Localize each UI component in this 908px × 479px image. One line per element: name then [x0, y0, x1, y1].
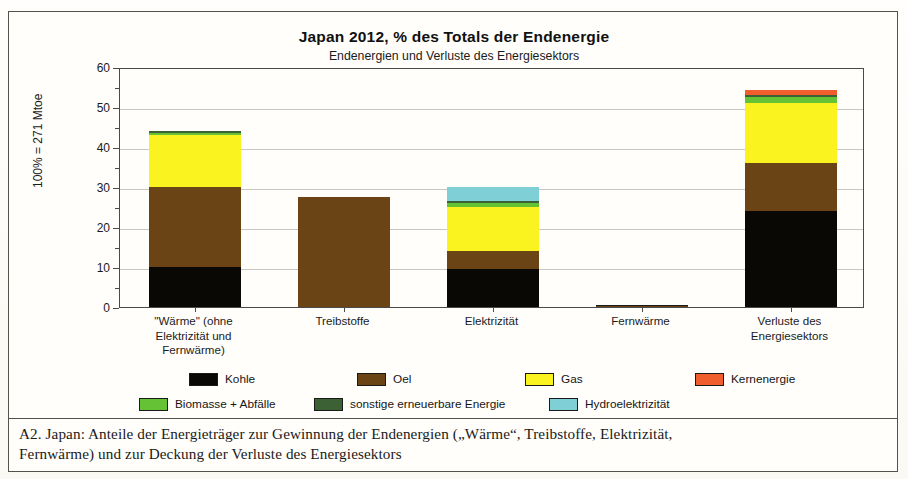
- x-axis-category-label: Treibstoffe: [268, 314, 417, 329]
- legend-swatch-icon: [357, 373, 386, 386]
- bar-segment: [745, 97, 837, 103]
- bar-segment: [149, 131, 241, 133]
- bar-segment: [745, 163, 837, 211]
- bar-segment: [149, 133, 241, 135]
- y-axis-tick-label: 0: [70, 301, 110, 315]
- stacked-bar: [298, 197, 390, 307]
- plot-wrapper: Japan 2012, % des Totals der Endenergie …: [9, 12, 899, 419]
- legend-swatch-icon: [695, 373, 724, 386]
- bar-segment: [447, 269, 539, 307]
- bar-segment: [447, 187, 539, 201]
- x-axis-category-label: Fernwärme: [566, 314, 715, 329]
- y-axis-tick-label: 20: [70, 221, 110, 235]
- bar-segment: [298, 197, 390, 307]
- x-axis-tick-mark: [493, 307, 494, 312]
- stacked-bar: [745, 90, 837, 307]
- legend-swatch-icon: [314, 398, 343, 411]
- x-axis-tick-mark: [195, 307, 196, 312]
- legend-item[interactable]: Kohle: [189, 372, 255, 386]
- stacked-bar: [596, 305, 688, 307]
- bar-segment: [149, 267, 241, 307]
- figure-caption-panel: A2. Japan: Anteile der Energieträger zur…: [8, 418, 898, 472]
- x-axis-tick-mark: [791, 307, 792, 312]
- chart-subtitle: Endenergien und Verluste des Energiesekt…: [9, 49, 899, 63]
- bar-segment: [596, 306, 688, 308]
- caption-label: A2. Japan:: [19, 424, 85, 444]
- legend-row: Biomasse + Abfällesonstige erneuerbare E…: [9, 397, 899, 414]
- legend-label: Oel: [393, 372, 411, 386]
- y-axis-tick-label: 10: [70, 261, 110, 275]
- y-axis-tick-label: 50: [70, 101, 110, 115]
- legend-swatch-icon: [189, 373, 218, 386]
- bar-segment: [447, 207, 539, 251]
- legend-label: Hydroelektrizität: [585, 397, 670, 411]
- y-axis-tick-label: 30: [70, 181, 110, 195]
- legend-row: KohleOelGasKernenergie: [9, 372, 899, 389]
- chart-title: Japan 2012, % des Totals der Endenergie: [9, 28, 899, 46]
- x-axis-tick-mark: [344, 307, 345, 312]
- bar-segment: [745, 211, 837, 307]
- bar-segment: [745, 103, 837, 163]
- plot-area: [119, 68, 864, 308]
- legend-item[interactable]: Gas: [525, 372, 583, 386]
- bar-segment: [447, 201, 539, 203]
- y-axis-tick-label: 40: [70, 141, 110, 155]
- stacked-bar: [149, 131, 241, 307]
- x-axis-category-label: "Wärme" (ohneElektrizität undFernwärme): [119, 314, 268, 358]
- x-axis-tick-mark: [642, 307, 643, 312]
- y-axis-tick-label: 60: [70, 61, 110, 75]
- figure-caption: A2. Japan: Anteile der Energieträger zur…: [19, 424, 887, 463]
- legend-label: Gas: [561, 372, 583, 386]
- bar-segment: [745, 95, 837, 97]
- legend-swatch-icon: [139, 398, 168, 411]
- legend-label: Biomasse + Abfälle: [175, 397, 276, 411]
- stacked-bar: [447, 187, 539, 307]
- figure-panel: Japan 2012, % des Totals der Endenergie …: [8, 11, 898, 418]
- y-axis-tick-mark: [113, 308, 119, 309]
- legend-item[interactable]: Biomasse + Abfälle: [139, 397, 276, 411]
- bar-segment: [447, 251, 539, 269]
- x-axis-category-label: Verluste desEnergiesektors: [715, 314, 864, 343]
- legend-label: sonstige erneuerbare Energie: [350, 397, 505, 411]
- bar-segment: [149, 135, 241, 187]
- bar-segment: [745, 90, 837, 95]
- x-axis-category-label: Elektrizität: [417, 314, 566, 329]
- bar-segment: [447, 203, 539, 207]
- y-axis-title: 100% = 271 Mtoe: [31, 94, 45, 188]
- legend-item[interactable]: Oel: [357, 372, 411, 386]
- legend-item[interactable]: Hydroelektrizität: [549, 397, 670, 411]
- legend-item[interactable]: Kernenergie: [695, 372, 795, 386]
- caption-line-2: Fernwärme) und zur Deckung der Verluste …: [19, 445, 402, 462]
- legend-label: Kernenergie: [731, 372, 795, 386]
- legend-swatch-icon: [525, 373, 554, 386]
- legend-item[interactable]: sonstige erneuerbare Energie: [314, 397, 505, 411]
- legend-swatch-icon: [549, 398, 578, 411]
- caption-line-1: Anteile der Energieträger zur Gewinnung …: [88, 425, 672, 442]
- legend-label: Kohle: [225, 372, 255, 386]
- bar-segment: [149, 187, 241, 267]
